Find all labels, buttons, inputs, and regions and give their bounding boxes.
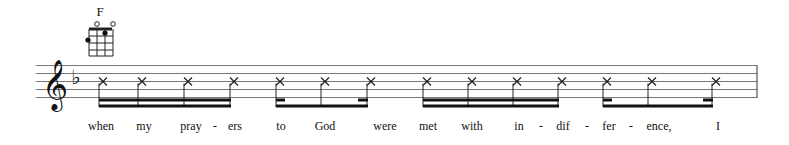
lyric-syllable: I	[716, 119, 720, 134]
lyric-syllable: dif	[556, 119, 569, 134]
lyric-syllable: when	[88, 119, 114, 134]
lyric-syllable: my	[136, 119, 151, 134]
lyric-syllable: were	[373, 119, 396, 134]
partial-beam	[703, 99, 713, 102]
beam	[99, 105, 231, 108]
lyric-syllable: met	[419, 119, 437, 134]
flat-icon: ♭	[71, 65, 80, 89]
chord-diagram	[85, 22, 115, 56]
beam	[276, 105, 368, 108]
lyric-syllable: pray	[180, 119, 201, 134]
lyric-syllable: ers	[228, 119, 242, 134]
secondary-beam	[423, 99, 559, 102]
lyric-syllable: ence,	[647, 119, 672, 134]
treble-clef-icon: 𝄞	[42, 58, 68, 112]
lyric-hyphen: -	[539, 119, 543, 134]
lyric-syllable: with	[461, 119, 482, 134]
lyric-hyphen: -	[585, 119, 589, 134]
staff-lines	[36, 66, 757, 98]
beam	[603, 105, 713, 108]
lyric-hyphen: -	[629, 119, 633, 134]
beam	[423, 105, 559, 108]
partial-beam	[603, 99, 612, 102]
lyric-hyphen: -	[213, 119, 217, 134]
secondary-beam	[99, 99, 231, 102]
partial-beam	[358, 99, 368, 102]
lyric-syllable: in	[514, 119, 523, 134]
lyric-syllable: God	[315, 119, 336, 134]
lyric-syllable: fer	[602, 119, 615, 134]
partial-beam	[276, 99, 285, 102]
lyric-syllable: to	[276, 119, 285, 134]
